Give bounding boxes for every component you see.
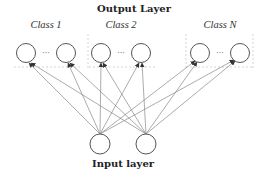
output-node-classN-last: [231, 44, 250, 63]
output-node-class2-first: [92, 44, 111, 63]
output-layer-title: Output Layer: [97, 3, 172, 14]
class-n-label: Class N: [204, 19, 238, 30]
ellipsis-class-n: ···: [216, 49, 224, 58]
connections: [29, 60, 235, 134]
ellipsis-class-2: ···: [117, 49, 125, 58]
input-nodes: [90, 134, 156, 154]
network-diagram: Output Layer Class 1 Class 2 Class N ···: [0, 0, 265, 177]
input-node-2: [136, 134, 156, 154]
class-1-label: Class 1: [30, 19, 61, 30]
class-2-label: Class 2: [105, 19, 137, 30]
output-nodes: [17, 44, 250, 63]
output-node-class2-last: [132, 44, 151, 63]
output-node-class1-last: [57, 44, 76, 63]
output-node-class1-first: [17, 44, 36, 63]
input-layer-title: Input layer: [92, 158, 155, 169]
input-node-1: [90, 134, 110, 154]
ellipsis-class-1: ···: [42, 49, 50, 58]
output-node-classN-first: [191, 44, 210, 63]
